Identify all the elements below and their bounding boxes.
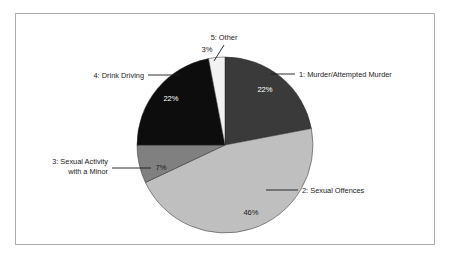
slice-value-sexual-activity-with-a-minor: 7% [156, 163, 167, 172]
slice-label-murder-attempted-murder: 1: Murder/Attempted Murder [299, 70, 392, 79]
pie-chart-figure: 1: Murder/Attempted Murder 2: Sexual Off… [0, 0, 454, 262]
slice-label-sexual-offences: 2: Sexual Offences [302, 186, 365, 195]
pie-chart-canvas: 1: Murder/Attempted Murder 2: Sexual Off… [0, 0, 454, 262]
slice-label-sexual-activity-with-a-minor-line2: with a Minor [67, 167, 108, 176]
slice-label-other: 5: Other [211, 33, 238, 42]
slice-label-drink-driving: 4: Drink Driving [93, 71, 144, 80]
slice-value-drink-driving: 22% [163, 94, 178, 103]
slice-label-sexual-activity-with-a-minor-line1: 3: Sexual Activity [52, 157, 108, 166]
slice-value-other: 3% [202, 45, 213, 54]
slice-value-murder-attempted-murder: 22% [257, 85, 272, 94]
slice-value-sexual-offences: 46% [243, 208, 258, 217]
